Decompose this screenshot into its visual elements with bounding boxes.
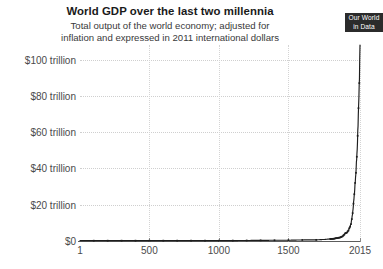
data-point-marker xyxy=(260,240,262,242)
world-gdp-line xyxy=(80,45,360,241)
data-point-marker xyxy=(149,240,151,242)
series-plot xyxy=(0,0,383,269)
data-point-marker xyxy=(107,240,109,242)
data-point-marker xyxy=(162,240,164,242)
data-point-marker xyxy=(135,240,137,242)
chart-container: World GDP over the last two millennia To… xyxy=(0,0,383,269)
data-point-marker xyxy=(232,240,234,242)
data-point-marker xyxy=(315,239,317,241)
data-point-marker xyxy=(246,240,248,242)
data-point-marker xyxy=(350,223,352,225)
data-point-marker xyxy=(349,226,351,228)
data-point-marker xyxy=(176,240,178,242)
data-point-marker xyxy=(355,172,357,174)
data-point-marker xyxy=(348,227,350,229)
data-point-marker xyxy=(354,182,356,184)
data-point-marker xyxy=(353,193,355,195)
data-point-marker xyxy=(218,240,220,242)
data-point-marker xyxy=(93,240,95,242)
data-point-marker xyxy=(348,230,350,232)
world-gdp-markers xyxy=(93,82,360,241)
data-point-marker xyxy=(121,240,123,242)
data-point-marker xyxy=(274,239,276,241)
data-point-marker xyxy=(351,218,353,220)
data-point-marker xyxy=(357,135,359,137)
data-point-marker xyxy=(358,82,360,84)
data-point-marker xyxy=(288,239,290,241)
plot-wrapper: $0$20 trillion$40 trillion$60 trillion$8… xyxy=(0,0,383,269)
data-point-marker xyxy=(352,212,354,214)
data-point-marker xyxy=(356,156,358,158)
data-point-marker xyxy=(358,107,360,109)
data-point-marker xyxy=(190,240,192,242)
data-point-marker xyxy=(353,203,355,205)
data-point-marker xyxy=(301,239,303,241)
data-point-marker xyxy=(204,240,206,242)
